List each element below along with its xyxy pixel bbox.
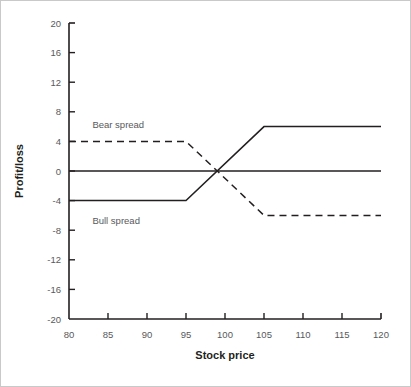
series-line-bull-spread xyxy=(69,127,381,201)
x-tick-label: 105 xyxy=(256,329,272,340)
series-line-bear-spread xyxy=(69,141,381,215)
tick-label-group: 201612840-4-8-12-16-20808590951001051101… xyxy=(47,18,389,341)
y-tick-label: 16 xyxy=(50,47,61,58)
x-tick-label: 100 xyxy=(217,329,233,340)
y-tick-label: -8 xyxy=(53,225,61,236)
y-tick-label: 20 xyxy=(50,18,61,29)
x-tick-label: 90 xyxy=(142,329,153,340)
x-tick-label: 80 xyxy=(64,329,75,340)
y-tick-label: -12 xyxy=(47,254,61,265)
tick-group xyxy=(69,53,342,319)
figure-container: 201612840-4-8-12-16-20808590951001051101… xyxy=(0,0,411,387)
y-tick-label: 8 xyxy=(56,106,61,117)
y-tick-label: -20 xyxy=(47,314,61,325)
x-tick-label: 115 xyxy=(334,329,349,340)
y-tick-label: 0 xyxy=(56,166,61,177)
annotation-group: Bull spreadBear spread xyxy=(92,119,144,226)
series-annotation-bull-spread: Bull spread xyxy=(92,215,140,226)
x-tick-label: 120 xyxy=(373,329,389,340)
y-tick-label: 12 xyxy=(50,77,61,88)
y-tick-label: -16 xyxy=(47,284,61,295)
x-tick-label: 95 xyxy=(181,329,192,340)
profit-loss-chart: 201612840-4-8-12-16-20808590951001051101… xyxy=(1,1,411,387)
y-tick-label: 4 xyxy=(56,136,61,147)
series-annotation-bear-spread: Bear spread xyxy=(92,119,144,130)
series-group xyxy=(69,127,381,216)
x-tick-label: 85 xyxy=(103,329,114,340)
y-tick-label: -4 xyxy=(53,195,61,206)
x-tick-label: 110 xyxy=(295,329,310,340)
